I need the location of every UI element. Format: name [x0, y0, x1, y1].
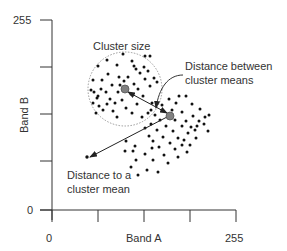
between-means-annotation-line2: cluster means: [185, 74, 253, 86]
distance-to-mean-annotation-line2: cluster mean: [67, 183, 130, 195]
x-axis: [40, 210, 236, 222]
x-min-label: 0: [46, 232, 52, 244]
y-axis-label: Band B: [18, 97, 30, 133]
y-max-label: 255: [13, 14, 31, 26]
x-axis-label: Band A: [126, 232, 161, 244]
cluster-2-mean: [166, 112, 174, 120]
distance-to-mean-arrow: [90, 117, 167, 157]
cluster-diagram: Band B: [0, 0, 287, 251]
outlier-point: [85, 155, 88, 158]
x-max-label: 255: [225, 232, 243, 244]
distance-to-mean-annotation-line1: Distance to a: [67, 169, 131, 181]
cluster-size-annotation: Cluster size: [93, 40, 150, 52]
between-means-annotation-line1: Distance between: [185, 60, 272, 72]
y-min-label: 0: [27, 204, 33, 216]
y-axis: [40, 20, 52, 220]
cluster-2-points: [124, 95, 211, 177]
leader-line: [156, 75, 183, 108]
cluster-1-mean: [121, 85, 129, 93]
